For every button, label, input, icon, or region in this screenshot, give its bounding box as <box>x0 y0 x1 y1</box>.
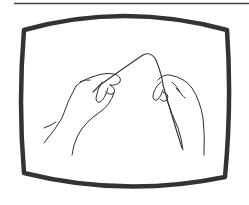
screen-frame <box>21 16 229 187</box>
right-hand <box>153 75 204 155</box>
string <box>100 54 182 148</box>
illustration <box>0 0 249 205</box>
left-hand <box>44 73 120 155</box>
